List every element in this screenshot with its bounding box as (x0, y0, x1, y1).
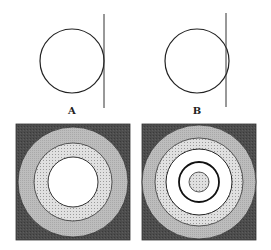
ring-center (48, 157, 98, 207)
label-b: B (193, 105, 201, 116)
circle-a (40, 29, 104, 93)
label-a: A (67, 105, 76, 116)
ring-bullseye (189, 172, 209, 192)
target-left (16, 124, 130, 240)
circle-b (165, 29, 229, 93)
figure: A B (0, 0, 271, 250)
panel-b: B (165, 13, 229, 116)
panel-a: A (40, 14, 104, 116)
target-right (142, 124, 256, 240)
